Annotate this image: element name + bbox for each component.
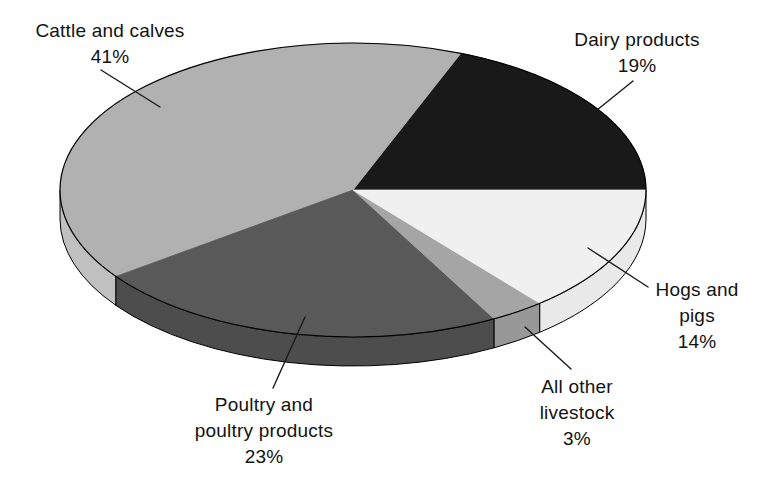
- slice-label-line: All other: [517, 374, 637, 400]
- slice-label-value: 14%: [641, 329, 753, 355]
- slice-label-all-other-livestock: All other livestock 3%: [517, 374, 637, 452]
- slice-label-value: 41%: [20, 44, 200, 70]
- pie-chart-figure: Dairy products 19% Cattle and calves 41%…: [0, 0, 769, 497]
- slice-label-line: poultry products: [182, 418, 346, 444]
- slice-label-dairy-products: Dairy products 19%: [556, 27, 718, 79]
- slice-label-line: pigs: [641, 303, 753, 329]
- leader-line-all-other-livestock: [525, 327, 571, 369]
- leader-line-dairy-products: [597, 81, 633, 110]
- slice-label-value: 19%: [556, 53, 718, 79]
- slice-label-line: Cattle and calves: [20, 18, 200, 44]
- slice-label-line: Dairy products: [556, 27, 718, 53]
- slice-label-value: 3%: [517, 426, 637, 452]
- slice-label-line: livestock: [517, 400, 637, 426]
- slice-label-line: Hogs and: [641, 277, 753, 303]
- slice-label-value: 23%: [182, 444, 346, 470]
- slice-label-line: Poultry and: [182, 392, 346, 418]
- slice-label-poultry-and-poultry-products: Poultry and poultry products 23%: [182, 392, 346, 470]
- slice-label-hogs-and-pigs: Hogs and pigs 14%: [641, 277, 753, 355]
- slice-label-cattle-and-calves: Cattle and calves 41%: [20, 18, 200, 70]
